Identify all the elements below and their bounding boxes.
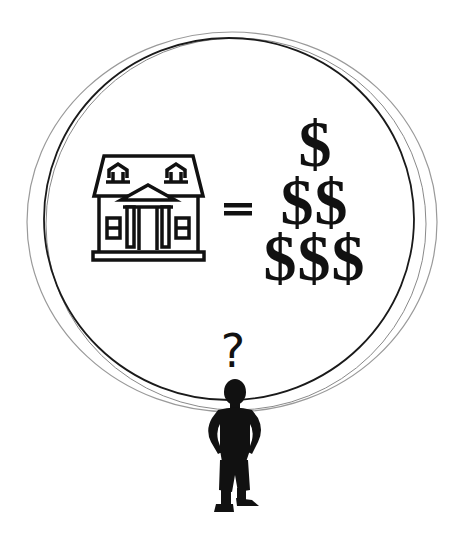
dollar-sign-row3-3: $	[332, 221, 365, 294]
house-icon	[93, 156, 204, 260]
question-mark: ?	[221, 324, 245, 378]
dollar-sign-row3-1: $	[264, 221, 297, 294]
dollar-pyramid: $ $ $ $ $ $	[264, 107, 365, 294]
dollar-sign-row3-2: $	[298, 221, 331, 294]
equals-sign	[224, 203, 252, 216]
thought-bubble-illustration: $ $ $ $ $ $ ?	[0, 0, 465, 538]
